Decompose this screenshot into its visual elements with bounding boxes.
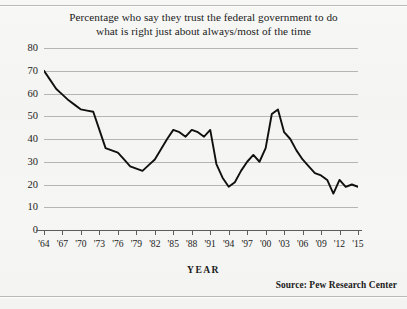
- x-axis-tick: [358, 230, 359, 235]
- y-axis-tick-label: 40: [12, 134, 38, 144]
- x-axis-title: YEAR: [0, 264, 407, 275]
- x-axis-tick-label: '15: [345, 238, 371, 249]
- x-axis-tick: [192, 230, 193, 235]
- x-axis-tick: [247, 230, 248, 235]
- x-axis-tick: [62, 230, 63, 235]
- page-background: Percentage who say they trust the federa…: [0, 0, 407, 309]
- y-axis-tick-label: 80: [12, 43, 38, 53]
- x-axis-tick: [321, 230, 322, 235]
- data-series-line: [44, 48, 358, 230]
- y-axis-tick-label: 60: [12, 89, 38, 99]
- x-axis-tick: [340, 230, 341, 235]
- x-axis-tick: [284, 230, 285, 235]
- x-axis-tick: [99, 230, 100, 235]
- x-axis-tick: [44, 230, 45, 235]
- y-axis-tick-label: 50: [12, 111, 38, 121]
- y-axis-tick-label: 30: [12, 157, 38, 167]
- x-axis-tick: [229, 230, 230, 235]
- x-axis-tick: [173, 230, 174, 235]
- x-axis-ticks: [0, 230, 407, 238]
- y-axis-tick-label: 70: [12, 66, 38, 76]
- plot-area: [44, 48, 358, 230]
- page-rule-top: [0, 5, 407, 6]
- chart-title: Percentage who say they trust the federa…: [0, 10, 407, 38]
- x-axis-tick: [118, 230, 119, 235]
- x-axis-tick: [210, 230, 211, 235]
- x-axis-tick: [136, 230, 137, 235]
- x-axis-tick: [155, 230, 156, 235]
- chart-title-line-2: what is right just about always/most of …: [0, 24, 407, 38]
- y-axis-tick-label: 10: [12, 202, 38, 212]
- x-axis-tick: [303, 230, 304, 235]
- x-axis-tick: [266, 230, 267, 235]
- y-axis-tick-label: 20: [12, 180, 38, 190]
- source-credit: Source: Pew Research Center: [276, 280, 397, 290]
- x-axis-tick-labels: '64'67'70'73'76'79'82'85'88'91'94'97'00'…: [0, 238, 407, 252]
- chart-title-line-1: Percentage who say they trust the federa…: [0, 10, 407, 24]
- page-rule-bottom: [0, 296, 407, 297]
- x-axis-tick: [81, 230, 82, 235]
